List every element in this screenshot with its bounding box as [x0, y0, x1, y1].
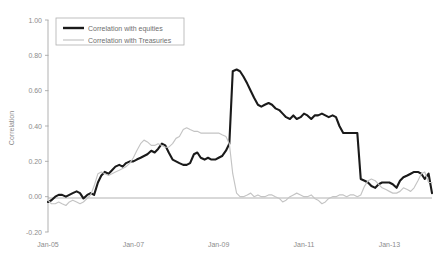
y-tick-label: 0.60 — [28, 87, 42, 94]
chart-canvas: 1.000.800.600.400.200.00-0.20 Jan-05Jan-… — [0, 0, 438, 261]
x-tick-label: Jan-13 — [379, 241, 401, 248]
x-tick-label: Jan-11 — [294, 241, 315, 248]
y-tick-label: -0.20 — [26, 229, 42, 236]
legend-label-0: Correlation with equities — [88, 25, 163, 33]
y-tick-label: 0.00 — [28, 193, 42, 200]
legend-label-1: Correlation with Treasuries — [88, 37, 172, 44]
correlation-chart: 1.000.800.600.400.200.00-0.20 Jan-05Jan-… — [0, 0, 438, 261]
x-tick-label: Jan-09 — [208, 241, 230, 248]
x-tick-label: Jan-07 — [123, 241, 145, 248]
y-tick-label: 1.00 — [28, 17, 42, 24]
y-axis-title: Correlation — [8, 111, 15, 145]
y-tick-label: 0.20 — [28, 158, 42, 165]
y-tick-label: 0.40 — [28, 123, 42, 130]
x-tick-label: Jan-05 — [37, 241, 59, 248]
chart-legend: Correlation with equitiesCorrelation wit… — [56, 18, 184, 45]
y-tick-label: 0.80 — [28, 52, 42, 59]
